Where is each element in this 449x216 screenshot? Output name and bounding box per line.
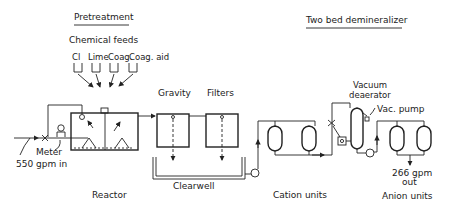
feed-label-cl: Cl [72, 52, 80, 62]
cation-units [268, 103, 332, 155]
vacuum-label: Vacuum [353, 80, 387, 90]
feed-label-coag-aid: Coag. aid [129, 52, 169, 62]
feed-label-lime: Lime [88, 52, 109, 62]
section-title-pretreatment: Pretreatment [74, 12, 134, 22]
anion-units-label: Anion units [382, 191, 433, 201]
leader-line [20, 138, 30, 155]
valve-icon [328, 120, 335, 126]
meter-label: Meter [36, 147, 62, 157]
inflow-label: 550 gpm in [16, 159, 67, 169]
vac-pump-label: Vac. pump [377, 104, 425, 114]
process-flow-diagram: Pretreatment Two bed demineralizer Chemi… [0, 0, 449, 216]
pump-icon [58, 125, 64, 131]
chemical-feeds-title: Chemical feeds [69, 35, 139, 45]
deaerator-label: deaerator [349, 90, 391, 100]
controller-icon [338, 137, 346, 145]
outflow-label-2: out [402, 177, 417, 187]
section-title-demineralizer: Two bed demineralizer [305, 15, 408, 25]
chemical-feed-tanks [74, 63, 137, 87]
transfer-pump-icon [251, 169, 259, 177]
clearwell-label: Clearwell [173, 181, 214, 191]
transfer-pump-icon [366, 149, 374, 157]
reactor-tank [71, 113, 138, 150]
gravity-label: Gravity [158, 88, 192, 98]
anion-units [390, 121, 431, 165]
reactor-label: Reactor [92, 190, 127, 200]
cation-units-label: Cation units [273, 190, 327, 200]
reactor-mixer-icon [101, 108, 108, 113]
vac-pump-icon [365, 117, 369, 121]
vacuum-deaerator-tank [351, 108, 363, 149]
filters-label: Filters [207, 88, 234, 98]
